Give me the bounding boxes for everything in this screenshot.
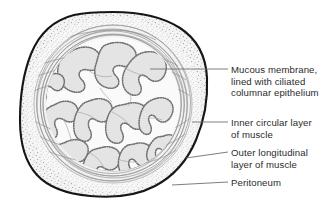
organ-body <box>20 12 207 197</box>
leader-outer-muscle <box>186 152 228 158</box>
leader-peritoneum <box>172 182 228 185</box>
figure-root: Mucous membrane, lined with ciliated col… <box>0 0 336 210</box>
label-outer-longitudinal-muscle: Outer longitudinal layer of muscle <box>231 147 335 170</box>
label-inner-circular-muscle: Inner circular layer of muscle <box>231 117 335 140</box>
label-peritoneum: Peritoneum <box>231 177 335 189</box>
label-mucous-membrane: Mucous membrane, lined with ciliated col… <box>231 64 335 99</box>
